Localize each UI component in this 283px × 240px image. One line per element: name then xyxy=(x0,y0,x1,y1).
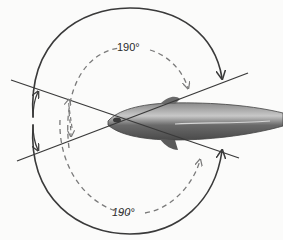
dolphin-vision-field-diagram: 190° 190° xyxy=(0,0,283,240)
angle-label-bottom: 190° xyxy=(112,207,135,218)
angle-label-top: 190° xyxy=(117,42,140,53)
outer-arc-top xyxy=(33,8,222,117)
dolphin-icon xyxy=(108,97,283,150)
diagram-svg xyxy=(0,0,283,240)
inner-arc-left-down xyxy=(69,112,71,136)
